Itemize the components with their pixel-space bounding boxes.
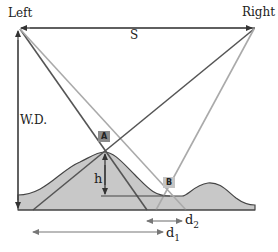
point-b-tag: B xyxy=(163,177,175,188)
stereo-parallax-diagram: Left Right S W.D. h d2 d1 A B xyxy=(0,0,278,252)
label-d2-sub: 2 xyxy=(193,220,199,230)
label-d1-sub: 1 xyxy=(174,233,180,243)
terrain-profile xyxy=(18,152,255,210)
label-d2: d2 xyxy=(185,213,199,226)
label-height: h xyxy=(94,172,102,185)
label-d1: d1 xyxy=(166,226,180,239)
label-working-distance: W.D. xyxy=(20,114,47,126)
point-a-tag: A xyxy=(98,131,110,142)
label-left: Left xyxy=(8,7,32,19)
label-baseline-s: S xyxy=(130,29,138,41)
label-right: Right xyxy=(242,6,275,18)
